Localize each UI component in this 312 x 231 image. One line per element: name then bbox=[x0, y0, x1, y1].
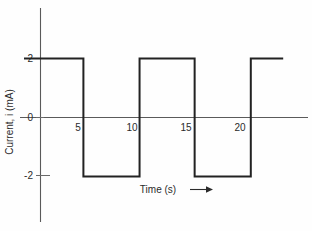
square-wave-plot: 2 0 -2 5 10 15 20 Current, i (mA) Time (… bbox=[0, 0, 312, 231]
x-axis-arrow-icon bbox=[190, 186, 213, 193]
x-tick-label-20: 20 bbox=[234, 122, 246, 133]
chart-figure: 2 0 -2 5 10 15 20 Current, i (mA) Time (… bbox=[0, 0, 312, 231]
x-tick-label-5: 5 bbox=[75, 122, 81, 133]
x-tick-label-10: 10 bbox=[126, 122, 138, 133]
y-tick-label-neg2: -2 bbox=[24, 170, 33, 181]
x-tick-label-15: 15 bbox=[180, 122, 192, 133]
x-axis-title: Time (s) bbox=[140, 184, 176, 195]
y-axis-title: Current, i (mA) bbox=[4, 89, 15, 155]
y-tick-label-0: 0 bbox=[27, 112, 33, 123]
